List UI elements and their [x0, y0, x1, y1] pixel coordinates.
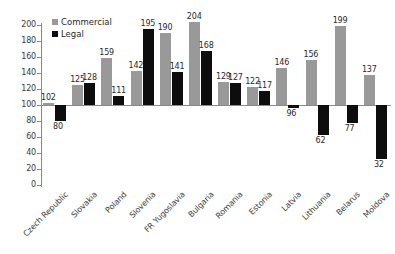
y-tick-mark	[37, 57, 41, 58]
bar-commercial	[364, 75, 375, 105]
bar-group: 15662	[304, 25, 333, 185]
bar-value-label: 141	[170, 62, 185, 71]
bar-legal	[288, 105, 299, 108]
y-tick-mark	[37, 41, 41, 42]
bar-commercial	[189, 22, 200, 105]
bar-value-label: 111	[111, 86, 126, 95]
y-tick-mark	[37, 185, 41, 186]
y-tick-label: 200	[2, 20, 36, 29]
bar-commercial	[335, 26, 346, 105]
bar-value-label: 127	[228, 73, 243, 82]
bar-group: 13732	[362, 25, 391, 185]
bar-value-label: 137	[362, 65, 377, 74]
bar-legal	[376, 105, 387, 159]
bar-legal	[84, 83, 95, 105]
y-tick-label: 140	[2, 68, 36, 77]
bar-groups: 1028012512815911114219519014120416812912…	[41, 25, 391, 185]
bar-group: 142195	[129, 25, 158, 185]
bar-value-label: 190	[158, 23, 173, 32]
y-tick-mark	[37, 89, 41, 90]
bar-value-label: 204	[187, 12, 202, 21]
x-tick-label-text: Poland	[104, 190, 129, 215]
bar-group: 14696	[274, 25, 303, 185]
bar-commercial	[43, 103, 54, 105]
bar-value-label: 62	[316, 136, 326, 145]
bar-group: 10280	[41, 25, 70, 185]
bar-value-label: 156	[304, 50, 319, 59]
y-tick-label: 20	[2, 164, 36, 173]
bar-commercial	[306, 60, 317, 105]
y-tick-label: 100	[2, 100, 36, 109]
bar-value-label: 142	[129, 61, 144, 70]
bar-legal	[318, 105, 329, 135]
bar-value-label: 199	[333, 16, 348, 25]
bar-value-label: 102	[41, 93, 56, 102]
x-axis-labels: Czech RepublicSlovakiaPolandSloveniaFR Y…	[41, 186, 391, 254]
y-tick-mark	[37, 73, 41, 74]
bar-commercial	[101, 58, 112, 105]
bar-group: 159111	[99, 25, 128, 185]
x-tick-label-text: Slovakia	[70, 190, 100, 220]
x-tick-label-text: Estonia	[248, 190, 275, 217]
bar-commercial	[218, 82, 229, 105]
bar-value-label: 80	[53, 122, 63, 131]
bar-legal	[259, 91, 270, 105]
bar-legal	[143, 29, 154, 105]
y-axis-labels: 020406080100120140160180200	[0, 0, 36, 254]
bar-group: 122117	[245, 25, 274, 185]
bar-legal	[230, 83, 241, 105]
y-tick-mark	[37, 153, 41, 154]
x-tick-label-text: Latvia	[280, 190, 303, 213]
y-tick-label: 0	[2, 180, 36, 189]
y-tick-mark	[37, 105, 41, 106]
x-tick-label-text: Bulgaria	[187, 190, 216, 219]
bar-commercial	[131, 71, 142, 105]
bar-legal	[347, 105, 358, 123]
bar-commercial	[72, 85, 83, 105]
x-tick-label-text: Slovenia	[128, 190, 158, 220]
x-tick-label-text: Belarus	[335, 190, 362, 217]
bar-value-label: 77	[345, 124, 355, 133]
y-tick-label: 80	[2, 116, 36, 125]
x-tick-label-text: Romania	[214, 190, 245, 221]
bar-group: 190141	[158, 25, 187, 185]
bar-legal	[55, 105, 66, 121]
y-tick-mark	[37, 25, 41, 26]
bar-legal	[113, 96, 124, 105]
y-tick-mark	[37, 137, 41, 138]
bar-group: 129127	[216, 25, 245, 185]
y-tick-label: 160	[2, 52, 36, 61]
bar-value-label: 146	[274, 58, 289, 67]
bar-value-label: 117	[257, 81, 272, 90]
y-tick-label: 60	[2, 132, 36, 141]
bar-value-label: 32	[374, 160, 384, 169]
bar-value-label: 159	[99, 48, 114, 57]
bar-value-label: 195	[141, 19, 156, 28]
bar-group: 19977	[333, 25, 362, 185]
bar-group: 204168	[187, 25, 216, 185]
y-tick-label: 40	[2, 148, 36, 157]
bar-value-label: 96	[286, 109, 296, 118]
bar-value-label: 128	[82, 73, 97, 82]
x-tick-label-text: Moldova	[361, 190, 391, 220]
bar-group: 125128	[70, 25, 99, 185]
bar-value-label: 168	[199, 41, 214, 50]
bar-chart: 020406080100120140160180200 Commercial L…	[0, 0, 395, 254]
y-tick-label: 120	[2, 84, 36, 93]
y-tick-mark	[37, 169, 41, 170]
bar-commercial	[276, 68, 287, 105]
bar-legal	[172, 72, 183, 105]
y-tick-mark	[37, 121, 41, 122]
x-tick-label-text: Lithuania	[301, 190, 333, 222]
bar-legal	[201, 51, 212, 105]
y-tick-label: 180	[2, 36, 36, 45]
